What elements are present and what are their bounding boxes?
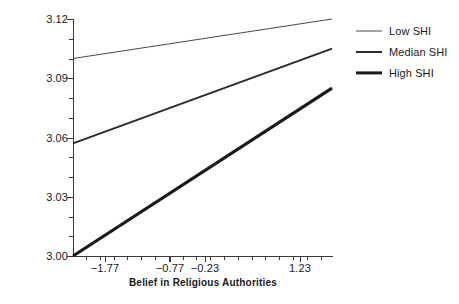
x-tick-minor: [127, 257, 128, 260]
x-tick-minor: [307, 257, 308, 260]
x-tick-minor: [210, 257, 211, 260]
series-line: [73, 49, 332, 144]
x-tick-minor: [196, 257, 197, 260]
series-lines: [73, 19, 332, 256]
x-tick-minor: [141, 257, 142, 260]
x-tick-minor: [293, 257, 294, 260]
y-tick-label: 3.12: [22, 14, 68, 25]
legend-line-swatch: [356, 26, 382, 36]
x-tick-minor: [155, 257, 156, 260]
plot-area: [73, 19, 332, 256]
legend-item[interactable]: Low SHI: [356, 22, 447, 40]
legend-line-swatch: [356, 47, 382, 57]
legend-line-swatch: [356, 68, 382, 78]
x-tick-minor: [183, 257, 184, 260]
y-tick-label: 3.00: [22, 251, 68, 262]
y-tick-label: 3.06: [22, 133, 68, 144]
x-tick-label: −0.23: [183, 262, 227, 274]
y-tick-label: 3.03: [22, 192, 68, 203]
x-tick-minor: [279, 257, 280, 260]
x-tick-label: 1.23: [278, 262, 322, 274]
x-axis-line: [73, 256, 333, 257]
x-tick-minor: [100, 257, 101, 260]
series-line: [73, 88, 332, 256]
x-tick-minor: [224, 257, 225, 260]
y-tick-label: 3.09: [22, 73, 68, 84]
legend-label: High SHI: [389, 67, 434, 79]
x-tick-minor: [238, 257, 239, 260]
legend-label: Low SHI: [389, 25, 431, 37]
x-tick-label: −1.77: [83, 262, 127, 274]
x-tick-minor: [86, 257, 87, 260]
chart-legend: Low SHIMedian SHIHigh SHI: [356, 22, 447, 85]
x-tick-minor: [114, 257, 115, 260]
x-tick-minor: [265, 257, 266, 260]
legend-item[interactable]: Median SHI: [356, 43, 447, 61]
x-tick-minor: [321, 257, 322, 260]
x-tick-minor: [252, 257, 253, 260]
chart-figure: 3.003.033.063.093.12 −1.77−0.77−0.231.23…: [0, 0, 459, 304]
legend-item[interactable]: High SHI: [356, 64, 447, 82]
series-line: [73, 19, 332, 59]
x-axis-title: Belief in Religious Authorities: [73, 277, 333, 288]
legend-label: Median SHI: [389, 46, 447, 58]
